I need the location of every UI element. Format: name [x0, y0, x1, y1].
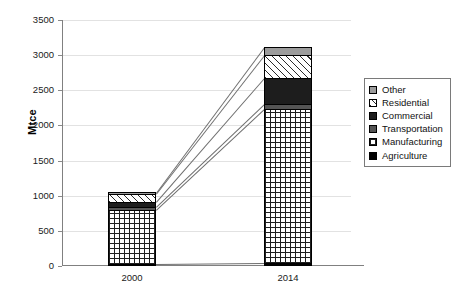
- bar-segment-agriculture: [264, 263, 312, 266]
- legend-item-transportation[interactable]: Transportation: [369, 123, 446, 136]
- y-tick-label: 3000: [6, 50, 54, 59]
- y-tick-label: 2500: [6, 85, 54, 94]
- plot-area: 0500100015002000250030003500: [62, 20, 351, 266]
- legend-swatch-icon: [369, 99, 377, 107]
- legend-swatch-icon: [369, 125, 377, 133]
- y-axis-tick: [58, 20, 62, 21]
- legend-item-label: Manufacturing: [382, 137, 442, 147]
- y-axis-tick: [58, 231, 62, 232]
- x-axis-extension: [351, 265, 364, 266]
- legend-item-label: Transportation: [382, 124, 443, 134]
- chart-figure: Mtce 0500100015002000250030003500 200020…: [0, 0, 455, 293]
- legend-item-other[interactable]: Other: [369, 83, 446, 96]
- x-tick-label-2000: 2000: [102, 272, 162, 283]
- bar-segment-manufacturing: [108, 210, 156, 264]
- bar-segment-commercial: [264, 78, 312, 104]
- y-tick-label: 0: [6, 261, 54, 270]
- legend-item-label: Other: [382, 85, 406, 95]
- y-axis-tick: [58, 55, 62, 56]
- y-axis-tick: [58, 161, 62, 162]
- legend-swatch-icon: [369, 112, 377, 120]
- y-tick-label: 1500: [6, 156, 54, 165]
- y-tick-label: 500: [6, 226, 54, 235]
- bar-segment-manufacturing: [264, 109, 312, 263]
- y-axis-line: [62, 20, 63, 266]
- bar-2000: [108, 20, 156, 266]
- x-tick-label-2014: 2014: [258, 272, 318, 283]
- y-tick-label: 3500: [6, 15, 54, 24]
- legend-swatch-icon: [369, 152, 377, 160]
- legend-item-label: Commercial: [382, 111, 433, 121]
- y-axis-tick: [58, 266, 62, 267]
- y-axis-tick: [58, 196, 62, 197]
- legend-item-label: Agriculture: [382, 151, 427, 161]
- chart-legend: OtherResidentialCommercialTransportation…: [364, 78, 451, 167]
- legend-item-commercial[interactable]: Commercial: [369, 109, 446, 122]
- bar-segment-agriculture: [108, 264, 156, 266]
- legend-item-label: Residential: [382, 98, 429, 108]
- connector-line: [156, 78, 265, 202]
- legend-swatch-icon: [369, 86, 377, 94]
- legend-item-residential[interactable]: Residential: [369, 96, 446, 109]
- legend-swatch-icon: [369, 138, 377, 146]
- bar-segment-residential: [108, 194, 156, 202]
- legend-item-agriculture[interactable]: Agriculture: [369, 149, 446, 162]
- bar-segment-other: [264, 47, 312, 55]
- y-tick-label: 1000: [6, 191, 54, 200]
- y-axis-tick: [58, 90, 62, 91]
- bar-segment-other: [108, 192, 156, 194]
- bar-segment-transportation: [264, 104, 312, 109]
- y-axis-tick: [58, 125, 62, 126]
- bar-segment-residential: [264, 55, 312, 78]
- bar-2014: [264, 20, 312, 266]
- y-tick-label: 2000: [6, 120, 54, 129]
- bar-segment-transportation: [108, 207, 156, 210]
- legend-item-manufacturing[interactable]: Manufacturing: [369, 136, 446, 149]
- bar-segment-commercial: [108, 202, 156, 207]
